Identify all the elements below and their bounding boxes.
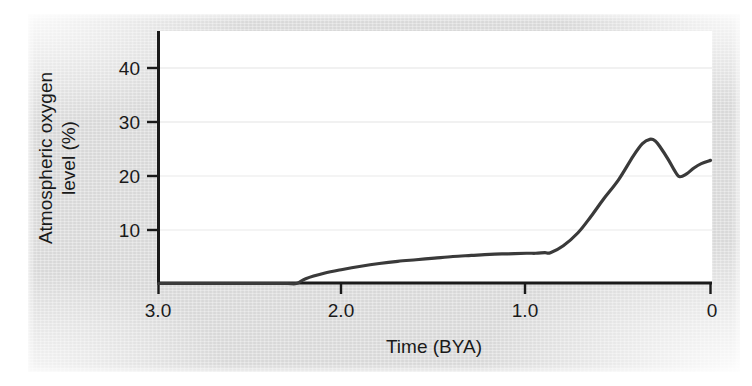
x-tick-label-2-0: 2.0	[328, 300, 354, 321]
x-tick-label-0: 0	[707, 300, 718, 321]
y-tick-label-20: 20	[119, 166, 140, 187]
plot-area-background	[157, 31, 712, 284]
y-tick-label-30: 30	[119, 112, 140, 133]
y-axis-title-line2: level (%)	[58, 121, 79, 195]
x-tick-label-1-0: 1.0	[512, 300, 538, 321]
y-tick-label-40: 40	[119, 58, 140, 79]
x-tick-label-3-0: 3.0	[145, 300, 171, 321]
figure-container: 40 30 20 10 3.0 2.0 1.0 0 Time (BYA) Atm…	[0, 0, 752, 386]
oxygen-level-line-chart: 40 30 20 10 3.0 2.0 1.0 0 Time (BYA) Atm…	[0, 0, 752, 386]
y-tick-label-10: 10	[119, 220, 140, 241]
y-axis-ticks	[147, 68, 158, 230]
y-axis-title-line1: Atmospheric oxygen	[35, 72, 56, 244]
x-axis-title: Time (BYA)	[386, 336, 482, 357]
